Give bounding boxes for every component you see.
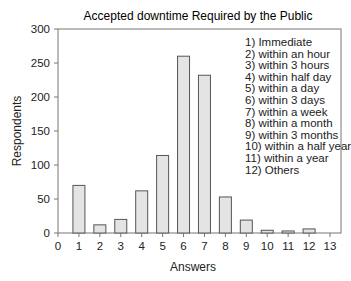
x-tick-label: 0: [55, 240, 61, 252]
chart-title: Accepted downtime Required by the Public: [84, 9, 313, 23]
legend-item: 2) within an hour: [245, 48, 330, 60]
legend-item: 9) within 3 months: [245, 129, 339, 141]
x-tick-label: 6: [180, 240, 186, 252]
legend: 1) Immediate2) within an hour3) within 3…: [245, 36, 351, 176]
legend-item: 5) within a day: [245, 82, 319, 94]
x-tick-label: 10: [261, 240, 274, 252]
x-tick-label: 1: [76, 240, 82, 252]
bar-3: [115, 219, 127, 233]
y-tick-label: 0: [44, 227, 50, 239]
x-tick-label: 11: [282, 240, 294, 252]
x-axis-label: Answers: [170, 260, 216, 274]
bar-7: [198, 75, 210, 233]
bar-4: [136, 191, 148, 233]
bar-9: [240, 220, 252, 233]
bar-11: [282, 231, 294, 233]
legend-item: 10) within a half year: [245, 140, 351, 152]
x-tick-label: 12: [303, 240, 316, 252]
y-tick-label: 200: [31, 91, 50, 103]
x-tick-label: 2: [97, 240, 103, 252]
y-axis-label: Respondents: [10, 96, 24, 167]
bar-1: [73, 185, 85, 233]
x-tick-label: 8: [222, 240, 228, 252]
y-tick-label: 250: [31, 57, 50, 69]
legend-item: 1) Immediate: [245, 36, 312, 48]
bar-2: [94, 225, 106, 233]
legend-item: 3) within 3 hours: [245, 59, 330, 71]
bar-6: [178, 56, 190, 233]
legend-item: 4) within half day: [245, 71, 332, 83]
bar-8: [219, 197, 231, 233]
bar-chart: Accepted downtime Required by the Public…: [0, 0, 351, 281]
bar-5: [157, 155, 169, 233]
x-tick-label: 4: [138, 240, 145, 252]
legend-item: 6) within 3 days: [245, 94, 325, 106]
x-tick-label: 3: [118, 240, 124, 252]
legend-item: 7) within a week: [245, 106, 328, 118]
legend-item: 8) within a month: [245, 117, 333, 129]
bar-12: [303, 229, 315, 233]
legend-item: 12) Others: [245, 164, 300, 176]
y-tick-label: 300: [31, 23, 50, 35]
x-tick-label: 9: [243, 240, 249, 252]
legend-item: 11) within a year: [245, 152, 329, 164]
x-tick-label: 13: [324, 240, 337, 252]
bar-10: [261, 230, 273, 233]
x-tick-label: 7: [201, 240, 207, 252]
y-tick-label: 50: [37, 193, 50, 205]
y-tick-label: 150: [31, 125, 50, 137]
y-tick-label: 100: [31, 159, 50, 171]
x-tick-label: 5: [159, 240, 165, 252]
